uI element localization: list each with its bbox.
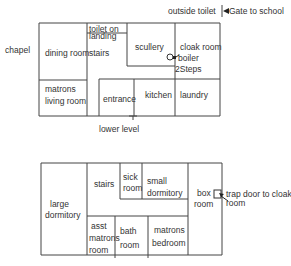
room-dining-room: dining room	[45, 48, 89, 58]
room-kitchen: kitchen	[145, 90, 172, 100]
room-matrons-living-line2: living room	[45, 96, 86, 106]
floor-plan-walls	[0, 0, 291, 266]
room-box-line2: room	[194, 199, 213, 209]
room-asst-matrons-line2: matrons	[89, 233, 120, 243]
outside-toilet-label: outside toilet	[168, 6, 216, 16]
room-matrons-living-line1: matrons	[45, 84, 76, 94]
room-sick-line2: room	[123, 183, 142, 193]
trap-door-label-line2: room	[226, 198, 245, 208]
room-large-dormitory-line1: large	[50, 199, 69, 209]
boiler-label: boiler	[178, 53, 199, 63]
room-asst-matrons-line1: asst	[91, 221, 107, 231]
room-stairs-lower: stairs	[94, 179, 114, 189]
room-asst-matrons-line3: room	[89, 245, 108, 255]
room-entrance: entrance	[103, 94, 136, 104]
room-matrons-bedroom-line2: bedroom	[152, 238, 186, 248]
room-stairs-upper: stairs	[89, 48, 109, 58]
steps-label: 2Steps	[175, 64, 201, 74]
room-small-dorm-line2: dormitory	[147, 188, 182, 198]
room-box-line1: box	[197, 188, 211, 198]
toilet-on-landing-line2: landing	[89, 31, 116, 41]
room-sick-line1: sick	[123, 172, 138, 182]
gate-to-school-label: Gate to school	[229, 6, 284, 16]
room-cloak-room: cloak room	[180, 42, 222, 52]
room-large-dormitory-line2: dormitory	[45, 210, 80, 220]
room-bath-line1: bath	[120, 226, 137, 236]
lower-level-label: lower level	[99, 124, 139, 134]
room-scullery: scullery	[135, 42, 164, 52]
room-bath-line2: room	[120, 240, 139, 250]
room-matrons-bedroom-line1: matrons	[154, 225, 185, 235]
room-laundry: laundry	[180, 90, 208, 100]
room-small-dorm-line1: small	[147, 176, 167, 186]
chapel-label: chapel	[5, 45, 30, 55]
